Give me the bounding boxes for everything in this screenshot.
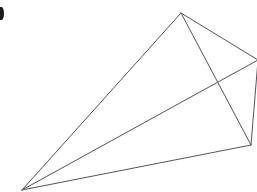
edge-apex-to-lowerright: [181, 13, 251, 145]
edge-group: [22, 13, 257, 190]
edge-apex-to-rightedge: [181, 13, 257, 60]
edge-bottomleft-to-rightedge: [22, 60, 257, 190]
figure-canvas: [0, 0, 257, 192]
wireframe-tetrahedron-drawing: [0, 0, 257, 192]
edge-rightedge-to-lowerright: [251, 60, 257, 145]
